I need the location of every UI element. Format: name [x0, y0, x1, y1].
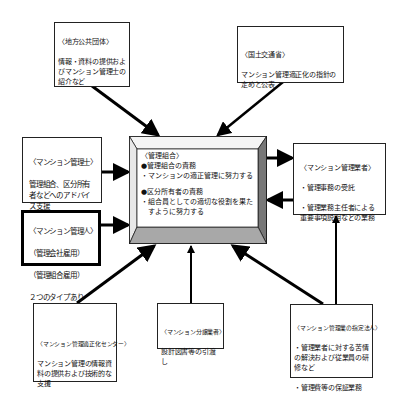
box-designated-corporation: 〈マンション管理業の指定法人〉 ・管理業者に対する苦情の解決および従業員の研修な…: [290, 304, 373, 378]
box-condo-consultant: 〈マンション管理士〉 管理組合、区分所有者などへのアドバイス支援: [22, 137, 102, 203]
section-item: ・マンションの適正管理に努力する: [141, 171, 254, 181]
section-item: すように努力する: [141, 207, 254, 217]
box-title: 〈地方公共団体〉: [58, 37, 126, 47]
box-line: ・管理業務主任者による重要事項説明などの業務: [300, 203, 381, 223]
box-text: 設計図書等の引渡し: [161, 348, 215, 366]
section-heading: ●管理組合の責務: [141, 161, 254, 171]
box-line: ２つのタイプあり: [29, 292, 93, 303]
box-line: （管理組合雇用）: [29, 270, 93, 281]
box-title: 〈国土交通省〉: [241, 50, 340, 60]
box-condo-administrator: 〈マンション管理人〉 （管理会社雇用） （管理組合雇用） ２つのタイプあり: [21, 210, 101, 266]
arrow-local-gov-to-center: [92, 86, 158, 135]
box-title: 〈マンション管理業の指定法人〉: [294, 323, 369, 333]
center-content: 〈管理組合〉 ●管理組合の責務 ・マンションの適正管理に努力する ●区分所有者の…: [137, 149, 258, 227]
box-line: ・管理事務の受託: [300, 183, 381, 193]
box-title: 〈マンション管理人〉: [29, 226, 93, 237]
arrow-designated-to-center: [233, 246, 323, 304]
center-title: 〈管理組合〉: [141, 151, 254, 161]
box-text: 情報・資料の提供およびマンション管理士の紹介など: [58, 58, 126, 86]
box-line: ・管理費等の保証業務: [294, 383, 369, 393]
box-mlit: 〈国土交通省〉 マンション管理適正化の指針の定めと公表: [237, 26, 344, 83]
box-line: ・管理業者に対する苦情の解決および従業員の研修など: [294, 343, 369, 373]
box-title: 〈マンション管理適正化センター〉: [37, 339, 113, 349]
box-text: 管理組合、区分所有者などへのアドバイス支援: [29, 180, 90, 211]
box-text: マンション管理適正化の指針の定めと公表: [241, 71, 336, 89]
box-management-center: 〈マンション管理適正化センター〉 マンション管理の情報資料の提供および技術的な支…: [33, 303, 117, 382]
box-text: マンション管理の情報資料の提供および技術的な支援: [37, 360, 112, 388]
box-developer: 〈マンション分譲業者〉 設計図書等の引渡し: [157, 303, 224, 349]
center-management-association: 〈管理組合〉 ●管理組合の責務 ・マンションの適正管理に努力する ●区分所有者の…: [129, 136, 267, 244]
box-management-company: 〈マンション管理業者〉 ・管理事務の受託 ・管理業務主任者による重要事項説明など…: [293, 143, 386, 215]
section-heading: ●区分所有者の責務: [141, 187, 254, 197]
box-title: 〈マンション管理業者〉: [300, 163, 381, 173]
box-line: （管理会社雇用）: [29, 248, 93, 259]
box-title: 〈マンション分譲業者〉: [161, 327, 220, 337]
box-title: 〈マンション管理士〉: [29, 157, 95, 168]
section-item: ・組合員としての適切な役割を果た: [141, 197, 254, 207]
box-local-government: 〈地方公共団体〉 情報・資料の提供およびマンション管理士の紹介など: [54, 22, 130, 87]
